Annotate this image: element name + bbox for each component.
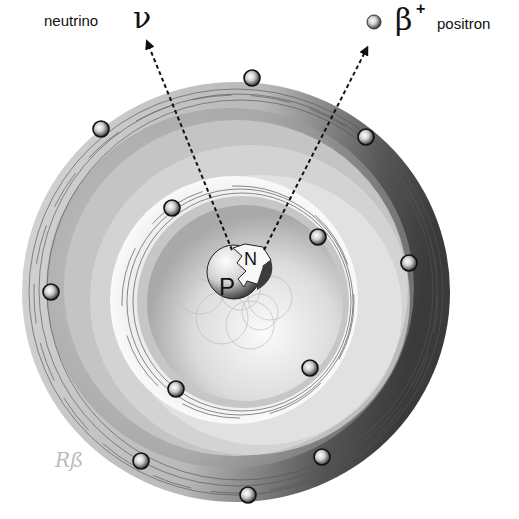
electron xyxy=(168,381,184,397)
electron xyxy=(302,360,318,376)
electron xyxy=(244,70,260,86)
positron-label: positron xyxy=(437,15,490,32)
electron xyxy=(310,229,326,245)
electron xyxy=(358,129,374,145)
atom-diagram: P N xyxy=(0,0,519,519)
neutrino-label: neutrino xyxy=(44,12,98,29)
positron-ball xyxy=(367,15,381,29)
electron xyxy=(93,121,109,137)
positron-symbol: β xyxy=(395,2,412,37)
electron xyxy=(164,200,180,216)
electron xyxy=(314,449,330,465)
electron xyxy=(240,487,256,503)
positron-charge: + xyxy=(416,0,425,18)
artist-signature: Rß xyxy=(55,448,83,472)
electron xyxy=(401,255,417,271)
neutron-label: N xyxy=(244,249,257,269)
inner-shell xyxy=(110,176,358,424)
proton-label: P xyxy=(219,273,235,300)
electron xyxy=(133,453,149,469)
neutrino-symbol: ν xyxy=(133,0,151,35)
electron xyxy=(43,284,59,300)
